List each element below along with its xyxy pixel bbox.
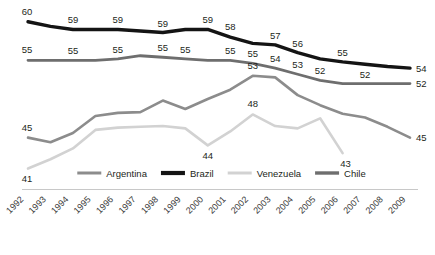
line-chart: 4553456059595959585756555441444843555555… bbox=[0, 0, 435, 255]
data-label: 55 bbox=[337, 47, 348, 58]
data-label: 59 bbox=[68, 14, 79, 25]
legend-label-chile: Chile bbox=[344, 168, 366, 179]
data-label: 45 bbox=[416, 132, 427, 143]
data-label: 52 bbox=[360, 69, 371, 80]
data-label: 45 bbox=[22, 122, 33, 133]
data-label: 56 bbox=[292, 38, 303, 49]
data-label: 52 bbox=[416, 78, 427, 89]
chart-canvas: 4553456059595959585756555441444843555555… bbox=[0, 0, 435, 255]
data-label: 55 bbox=[113, 44, 124, 55]
data-label: 53 bbox=[292, 59, 303, 70]
data-label: 55 bbox=[68, 45, 79, 56]
legend-label-brazil: Brazil bbox=[190, 168, 214, 179]
data-label: 57 bbox=[270, 30, 281, 41]
data-label: 60 bbox=[22, 6, 33, 17]
data-label: 55 bbox=[180, 44, 191, 55]
chart-background bbox=[0, 0, 435, 255]
legend-label-venezuela: Venezuela bbox=[257, 168, 302, 179]
data-label: 55 bbox=[158, 42, 169, 53]
data-label: 52 bbox=[315, 65, 326, 76]
data-label: 58 bbox=[225, 21, 236, 32]
data-label: 59 bbox=[202, 14, 213, 25]
data-label: 59 bbox=[113, 14, 124, 25]
data-label: 55 bbox=[225, 45, 236, 56]
data-label: 54 bbox=[270, 53, 281, 64]
data-label: 54 bbox=[416, 63, 427, 74]
data-label: 44 bbox=[202, 150, 213, 161]
data-label: 55 bbox=[22, 44, 33, 55]
data-label: 41 bbox=[22, 173, 33, 184]
data-label: 59 bbox=[158, 18, 169, 29]
legend-label-argentina: Argentina bbox=[106, 168, 147, 179]
data-label: 53 bbox=[247, 60, 258, 71]
data-label: 55 bbox=[247, 48, 258, 59]
data-label: 48 bbox=[247, 98, 258, 109]
